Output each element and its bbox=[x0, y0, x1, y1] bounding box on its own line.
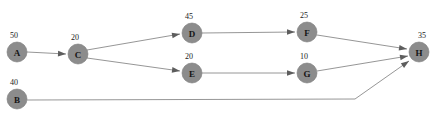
nodes-layer: A50B40C20D45E20F25G10H35 bbox=[7, 11, 429, 109]
node-weight-d: 45 bbox=[185, 12, 193, 21]
node-g[interactable]: G10 bbox=[297, 52, 317, 83]
arrowhead-f-h bbox=[399, 45, 408, 52]
node-label-f: F bbox=[304, 28, 310, 38]
arrowhead-a-c bbox=[58, 51, 66, 57]
arrowhead-d-f bbox=[287, 29, 295, 35]
node-label-a: A bbox=[14, 48, 21, 58]
edges-layer bbox=[27, 29, 411, 100]
edge-d-f bbox=[202, 32, 295, 33]
node-weight-g: 10 bbox=[300, 52, 308, 61]
node-weight-c: 20 bbox=[71, 33, 79, 42]
arrowhead-g-h bbox=[400, 53, 409, 60]
node-label-e: E bbox=[189, 69, 195, 79]
node-f[interactable]: F25 bbox=[297, 11, 317, 42]
node-weight-h: 35 bbox=[418, 31, 426, 40]
arrowhead-e-g bbox=[287, 70, 295, 76]
node-weight-f: 25 bbox=[300, 11, 308, 20]
node-label-g: G bbox=[303, 69, 310, 79]
node-weight-b: 40 bbox=[10, 78, 18, 87]
node-b[interactable]: B40 bbox=[7, 78, 27, 109]
node-label-c: C bbox=[75, 50, 82, 60]
graph-canvas: A50B40C20D45E20F25G10H35 bbox=[0, 0, 431, 114]
node-label-b: B bbox=[14, 95, 20, 105]
node-weight-e: 20 bbox=[185, 52, 193, 61]
node-e[interactable]: E20 bbox=[182, 52, 202, 83]
node-d[interactable]: D45 bbox=[182, 12, 202, 43]
arrowhead-c-d bbox=[172, 31, 181, 38]
edge-g-h bbox=[317, 56, 408, 71]
edge-c-d bbox=[87, 34, 180, 50]
node-h[interactable]: H35 bbox=[409, 31, 429, 62]
node-label-h: H bbox=[415, 48, 422, 58]
edge-f-h bbox=[317, 35, 407, 49]
arrowhead-b-h bbox=[401, 59, 411, 68]
node-c[interactable]: C20 bbox=[68, 33, 88, 64]
node-weight-a: 50 bbox=[10, 31, 18, 40]
node-a[interactable]: A50 bbox=[7, 31, 27, 62]
edge-c-e bbox=[87, 58, 180, 71]
graph-diagram: A50B40C20D45E20F25G10H35 bbox=[0, 0, 431, 114]
node-label-d: D bbox=[189, 29, 196, 39]
edge-b-h bbox=[27, 61, 409, 100]
